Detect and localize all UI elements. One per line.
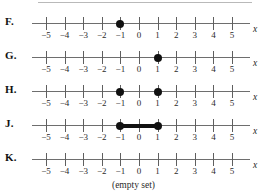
- axis-tick: [213, 153, 214, 166]
- choice-h-number-line: −5−4−3−2−1012345x: [0, 76, 267, 111]
- axis-tick: [46, 153, 47, 166]
- axis-tick: [46, 119, 47, 132]
- axis-tick: [213, 17, 214, 30]
- axis-tick: [46, 17, 47, 30]
- choice-f-number-line: −5−4−3−2−1012345x: [0, 8, 267, 43]
- axis-tick: [139, 85, 140, 98]
- axis-variable-label: x: [253, 126, 257, 136]
- axis-tick: [83, 85, 84, 98]
- axis-tick: [65, 153, 66, 166]
- axis-tick: [120, 51, 121, 64]
- axis-tick: [195, 119, 196, 132]
- solution-point: [116, 20, 124, 28]
- clipped-previous-figure: [0, 0, 267, 6]
- solution-point: [154, 54, 162, 62]
- axis-tick: [195, 51, 196, 64]
- axis-variable-label: x: [253, 58, 257, 68]
- axis-tick: [102, 153, 103, 166]
- axis-tick: [83, 153, 84, 166]
- axis-tick: [139, 153, 140, 166]
- axis-tick: [176, 119, 177, 132]
- axis-tick: [102, 51, 103, 64]
- choice-f[interactable]: F.−5−4−3−2−1012345x: [0, 8, 267, 43]
- empty-set-caption: (empty set): [0, 180, 267, 190]
- axis-tick: [65, 85, 66, 98]
- solution-point: [154, 122, 162, 130]
- axis-tick: [213, 51, 214, 64]
- choice-j[interactable]: J.−5−4−3−2−1012345x: [0, 110, 267, 145]
- axis-tick-label: 5: [221, 30, 243, 41]
- axis-tick: [139, 17, 140, 30]
- axis-variable-label: x: [253, 92, 257, 102]
- axis-tick: [83, 51, 84, 64]
- axis-tick: [46, 51, 47, 64]
- axis-tick: [102, 17, 103, 30]
- axis-tick: [232, 153, 233, 166]
- axis-variable-label: x: [253, 24, 257, 34]
- axis-tick-label: 5: [221, 132, 243, 143]
- axis-tick: [232, 51, 233, 64]
- choice-g[interactable]: G.−5−4−3−2−1012345x: [0, 42, 267, 77]
- axis-tick: [65, 119, 66, 132]
- axis-tick: [176, 153, 177, 166]
- axis-tick-label: 5: [221, 98, 243, 109]
- axis-tick: [195, 17, 196, 30]
- axis-tick: [158, 153, 159, 166]
- axis-tick: [232, 85, 233, 98]
- axis-tick-label: 5: [221, 166, 243, 177]
- solution-segment: [120, 124, 157, 128]
- axis-tick: [213, 119, 214, 132]
- axis-tick: [195, 153, 196, 166]
- choice-k[interactable]: K.−5−4−3−2−1012345x: [0, 144, 267, 179]
- axis-tick: [65, 51, 66, 64]
- axis-tick: [213, 85, 214, 98]
- solution-point: [116, 88, 124, 96]
- axis-tick: [102, 85, 103, 98]
- axis-tick: [158, 17, 159, 30]
- axis-tick: [65, 17, 66, 30]
- axis-tick: [83, 17, 84, 30]
- solution-point: [154, 88, 162, 96]
- axis-tick: [176, 51, 177, 64]
- axis-tick: [46, 85, 47, 98]
- choice-h[interactable]: H.−5−4−3−2−1012345x: [0, 76, 267, 111]
- axis-tick: [232, 17, 233, 30]
- choice-j-number-line: −5−4−3−2−1012345x: [0, 110, 267, 145]
- choice-k-number-line: −5−4−3−2−1012345x: [0, 144, 267, 179]
- solution-point: [116, 122, 124, 130]
- axis-tick: [195, 85, 196, 98]
- clipped-axis-line: [38, 2, 252, 3]
- axis-tick: [83, 119, 84, 132]
- axis-variable-label: x: [253, 160, 257, 170]
- axis-tick: [176, 85, 177, 98]
- axis-tick: [120, 153, 121, 166]
- axis-tick: [139, 51, 140, 64]
- axis-tick: [232, 119, 233, 132]
- axis-tick-label: 5: [221, 64, 243, 75]
- axis-tick: [176, 17, 177, 30]
- axis-tick: [102, 119, 103, 132]
- choice-g-number-line: −5−4−3−2−1012345x: [0, 42, 267, 77]
